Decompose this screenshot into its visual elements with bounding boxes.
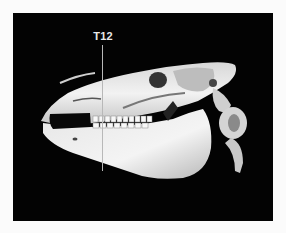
t12-label: T12: [93, 30, 113, 42]
ct-image-panel: T12: [13, 13, 273, 221]
t12-slice-line: [102, 45, 103, 171]
skull-rendering: [13, 13, 273, 221]
